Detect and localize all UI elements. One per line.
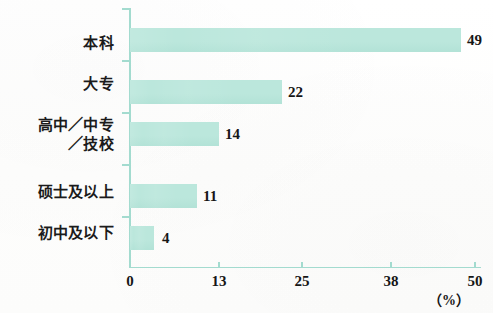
category-label-junior-college-line1: 大专 xyxy=(83,76,114,92)
x-tick-label-50: 50 xyxy=(468,274,483,289)
category-label-highschool-line1: 高中／中专 xyxy=(38,117,115,133)
category-label-bachelor-line1: 本科 xyxy=(83,35,114,51)
category-label-highschool-line2: ／技校 xyxy=(38,135,115,154)
y-axis-tick xyxy=(122,112,129,114)
x-tick-label-0: 0 xyxy=(126,274,134,289)
bar-bachelor xyxy=(130,28,461,52)
x-axis-tick-38 xyxy=(390,262,392,268)
y-axis-tick xyxy=(122,8,129,10)
x-tick-label-25: 25 xyxy=(295,274,310,289)
x-axis-tick-50 xyxy=(474,262,476,268)
bar-highschool xyxy=(130,122,219,146)
bar-master xyxy=(130,184,197,208)
x-axis-tick-0 xyxy=(129,262,131,268)
x-tick-label-38: 38 xyxy=(384,274,399,289)
x-axis-unit-label: （%） xyxy=(428,294,470,308)
bar-chart-figure: 本科 大专 高中／中专 ／技校 硕士及以上 初中及以下 49 22 xyxy=(0,0,493,313)
category-label-middleschool: 初中及以下 xyxy=(38,224,115,243)
x-axis-tick-13 xyxy=(218,262,220,268)
bar-junior-college xyxy=(130,80,282,104)
category-label-master: 硕士及以上 xyxy=(38,183,115,202)
plot-area: 49 22 14 11 4 xyxy=(129,8,489,268)
bar-value-junior-college: 22 xyxy=(288,85,303,100)
x-axis-line xyxy=(129,267,481,269)
y-axis-tick xyxy=(122,216,129,218)
x-tick-label-13: 13 xyxy=(212,274,227,289)
bar-value-middleschool: 4 xyxy=(162,231,170,246)
category-label-master-line1: 硕士及以上 xyxy=(38,184,115,200)
bar-middleschool xyxy=(130,226,154,250)
category-label-highschool: 高中／中专 ／技校 xyxy=(38,116,115,154)
x-axis-tick-25 xyxy=(301,262,303,268)
bar-value-highschool: 14 xyxy=(225,127,240,142)
bar-value-master: 11 xyxy=(203,189,217,204)
bar-value-bachelor: 49 xyxy=(467,33,482,48)
category-label-junior-college: 大专 xyxy=(83,75,114,94)
y-axis-tick xyxy=(122,60,129,62)
category-label-middleschool-line1: 初中及以下 xyxy=(38,225,115,241)
category-label-bachelor: 本科 xyxy=(83,34,114,53)
y-axis-tick xyxy=(122,164,129,166)
